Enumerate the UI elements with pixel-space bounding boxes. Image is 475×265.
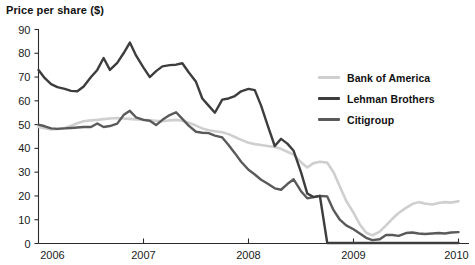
- y-tick-label: 40: [18, 142, 30, 154]
- chart-container: Price per share ($) 0102030405060708090 …: [0, 0, 475, 265]
- x-tick-group: 20062007200820092010: [40, 239, 468, 261]
- x-tick-label: 2007: [131, 249, 155, 261]
- x-tick-label: 2006: [40, 249, 64, 261]
- y-tick-label: 10: [18, 214, 30, 226]
- x-tick-label: 2010: [444, 249, 468, 261]
- y-tick-label: 60: [18, 95, 30, 107]
- y-tick-label: 20: [18, 190, 30, 202]
- series-line-bank-of-america: [39, 118, 459, 235]
- y-tick-label: 50: [18, 119, 30, 131]
- chart-legend: Bank of America Lehman Brothers Citigrou…: [318, 67, 468, 130]
- x-tick-label: 2009: [341, 249, 365, 261]
- legend-item-citigroup[interactable]: Citigroup: [318, 109, 468, 130]
- legend-label-lehman-brothers: Lehman Brothers: [347, 93, 435, 105]
- legend-item-bank-of-america[interactable]: Bank of America: [318, 67, 468, 88]
- chart-plot-area: 0102030405060708090 20062007200820092010: [0, 0, 475, 265]
- legend-label-citigroup: Citigroup: [347, 114, 394, 126]
- y-tick-label: 70: [18, 71, 30, 83]
- legend-swatch-citigroup: [318, 118, 340, 121]
- y-axis-group: 0102030405060708090: [18, 24, 38, 250]
- x-axis-group: 20062007200820092010: [39, 239, 470, 261]
- legend-swatch-bank-of-america: [318, 76, 340, 79]
- y-tick-label: 30: [18, 166, 30, 178]
- series-line-citigroup: [39, 111, 459, 240]
- x-tick-label: 2008: [236, 249, 260, 261]
- legend-swatch-lehman-brothers: [318, 97, 340, 100]
- legend-label-bank-of-america: Bank of America: [347, 72, 430, 84]
- y-tick-group: 0102030405060708090: [18, 24, 38, 250]
- y-tick-label: 0: [24, 238, 30, 250]
- legend-item-lehman-brothers[interactable]: Lehman Brothers: [318, 88, 468, 109]
- y-tick-label: 90: [18, 24, 30, 36]
- y-tick-label: 80: [18, 47, 30, 59]
